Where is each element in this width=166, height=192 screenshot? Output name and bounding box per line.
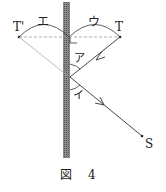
- caption-prefix: 図: [60, 169, 72, 181]
- virtual-ray: [19, 37, 68, 76]
- label-a: ア: [74, 53, 85, 64]
- label-e: エ: [37, 16, 49, 28]
- reflected-ray: [70, 77, 142, 136]
- label-t-prime: T': [13, 21, 24, 33]
- label-t: T: [115, 21, 123, 33]
- label-s: S: [145, 138, 153, 150]
- caption-number: 4: [88, 169, 96, 181]
- label-u: ウ: [88, 16, 100, 28]
- label-i: イ: [73, 90, 84, 101]
- mirror: [63, 2, 70, 158]
- right-angle-mark: [70, 37, 77, 43]
